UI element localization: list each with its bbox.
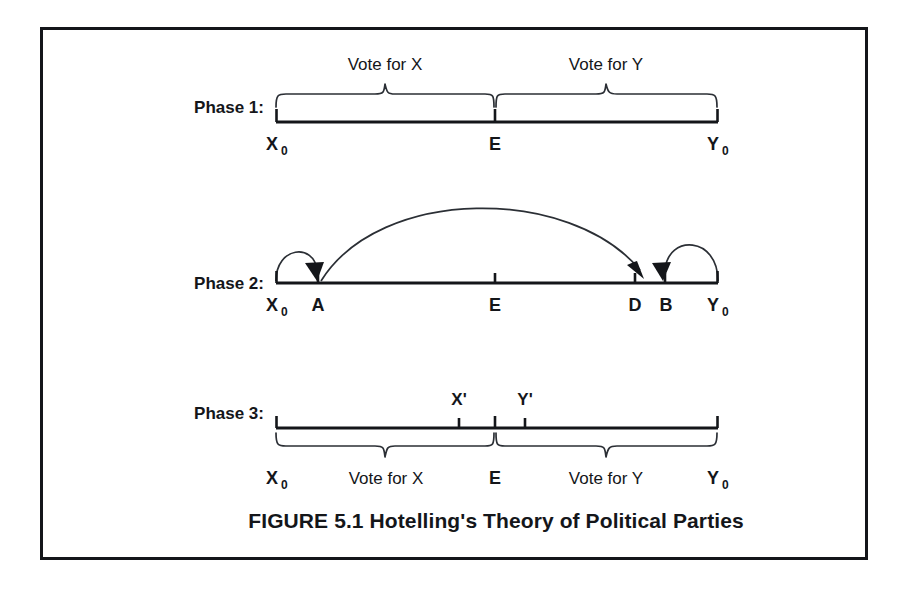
phase-2-label-x0-sub: 0 [281, 305, 288, 319]
phase-3-brace-label-right: Vote for Y [569, 469, 643, 488]
phase-3-label-x0-main: X [266, 468, 278, 488]
phase-3-label-e: E [489, 468, 501, 488]
phase-3-label-x0-sub: 0 [281, 478, 288, 492]
phase-2-label-y0-main: Y [707, 295, 719, 315]
phase-2-label-b: B [660, 295, 673, 315]
phase-1-label: Phase 1: [194, 98, 264, 117]
phase-1-label-e: E [489, 134, 501, 154]
hotelling-diagram: Phase 1: Vote for X Vote for Y X 0 E Y 0 [0, 0, 906, 591]
phase-3-label-y0-sub: 0 [722, 478, 729, 492]
figure-caption: FIGURE 5.1 Hotelling's Theory of Politic… [248, 509, 743, 532]
phase-3-label: Phase 3: [194, 404, 264, 423]
phase-2-label-x0-main: X [266, 295, 278, 315]
phase-1-label-y0-main: Y [707, 134, 719, 154]
phase-1-label-x0-sub: 0 [281, 144, 288, 158]
phase-2-label-e: E [489, 295, 501, 315]
phase-3-label-x-prime: X' [451, 390, 466, 409]
phase-2-label-a: A [312, 295, 325, 315]
phase-1-label-x0-main: X [266, 134, 278, 154]
phase-2-label: Phase 2: [194, 274, 264, 293]
phase-1-brace-label-right: Vote for Y [569, 55, 643, 74]
canvas-background [0, 0, 906, 591]
phase-2-label-d: D [629, 295, 642, 315]
phase-1-label-y0-sub: 0 [722, 144, 729, 158]
figure-container: Phase 1: Vote for X Vote for Y X 0 E Y 0 [0, 0, 906, 591]
phase-2-label-y0-sub: 0 [722, 305, 729, 319]
phase-3-label-y0-main: Y [707, 468, 719, 488]
phase-3-label-y-prime: Y' [517, 390, 532, 409]
phase-3-brace-label-left: Vote for X [349, 469, 424, 488]
phase-1-brace-label-left: Vote for X [348, 55, 423, 74]
